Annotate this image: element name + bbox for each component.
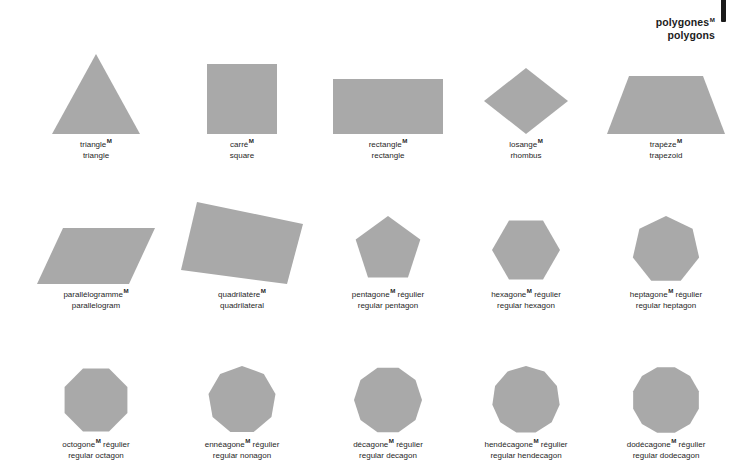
caption-french-noun: octogone xyxy=(62,440,95,449)
caption-english: triangle xyxy=(22,151,170,162)
figure-cell-parallelogram: parallélogrammeMparallelogram xyxy=(22,188,170,311)
caption-french: ennéagoneM régulier xyxy=(168,440,316,451)
caption-english: regular hendecagon xyxy=(452,451,600,462)
caption-french-noun: losange xyxy=(509,140,537,149)
shape-regular-polygon-10-sides xyxy=(314,338,462,434)
figure-caption: pentagoneM régulierregular pentagon xyxy=(314,290,462,311)
figure-cell-regular-dodecagon: dodécagoneM régulierregular dodecagon xyxy=(592,338,739,461)
caption-english: quadrilateral xyxy=(168,301,316,312)
caption-english: parallelogram xyxy=(22,301,170,312)
caption-french-noun: dodécagone xyxy=(627,440,671,449)
caption-french-noun: heptagone xyxy=(630,290,668,299)
shape-regular-polygon-8-sides xyxy=(22,338,170,434)
shape-rectangle-4-sides xyxy=(314,38,462,134)
caption-french: rectangleM xyxy=(314,140,462,151)
caption-french: quadrilatèreM xyxy=(168,290,316,301)
shape-regular-polygon-7-sides xyxy=(592,188,739,284)
shape-rhombus-4-sides xyxy=(452,38,600,134)
caption-english: trapezoid xyxy=(592,151,739,162)
caption-french-suffix: régulier xyxy=(676,440,705,449)
figure-cell-regular-hexagon: hexagoneM régulierregular hexagon xyxy=(452,188,600,311)
shape-trapezoid-4-sides xyxy=(592,38,739,134)
figure-cell-triangle: triangleMtriangle xyxy=(22,38,170,161)
caption-french-suffix: régulier xyxy=(539,440,568,449)
figure-caption: losangeMrhombus xyxy=(452,140,600,161)
caption-french: triangleM xyxy=(22,140,170,151)
gender-marker: M xyxy=(249,137,254,144)
figure-cell-regular-heptagon: heptagoneM régulierregular heptagon xyxy=(592,188,739,311)
figure-caption: octogoneM régulierregular octagon xyxy=(22,440,170,461)
caption-french: hexagoneM régulier xyxy=(452,290,600,301)
caption-french: hendécagoneM régulier xyxy=(452,440,600,451)
shape-regular-polygon-9-sides xyxy=(168,338,316,434)
figure-caption: heptagoneM régulierregular heptagon xyxy=(592,290,739,311)
caption-english: rhombus xyxy=(452,151,600,162)
gender-marker: M xyxy=(261,287,266,294)
caption-french-noun: trapèze xyxy=(650,140,677,149)
figure-caption: décagoneM régulierregular decagon xyxy=(314,440,462,461)
caption-english: regular decagon xyxy=(314,451,462,462)
shape-regular-polygon-5-sides xyxy=(314,188,462,284)
caption-french-noun: décagone xyxy=(353,440,388,449)
caption-french-suffix: régulier xyxy=(532,290,561,299)
gender-marker: M xyxy=(538,137,543,144)
shape-regular-polygon-12-sides xyxy=(592,338,739,434)
gender-marker: M xyxy=(107,137,112,144)
figure-caption: parallélogrammeMparallelogram xyxy=(22,290,170,311)
caption-english: regular octagon xyxy=(22,451,170,462)
caption-french: heptagoneM régulier xyxy=(592,290,739,301)
figure-caption: dodécagoneM régulierregular dodecagon xyxy=(592,440,739,461)
figure-cell-trapezoid: trapèzeMtrapezoid xyxy=(592,38,739,161)
figure-cell-regular-pentagon: pentagoneM régulierregular pentagon xyxy=(314,188,462,311)
figure-caption: ennéagoneM régulierregular nonagon xyxy=(168,440,316,461)
caption-english: square xyxy=(168,151,316,162)
caption-french-suffix: régulier xyxy=(673,290,702,299)
caption-french-noun: hendécagone xyxy=(484,440,533,449)
figure-cell-rhombus: losangeMrhombus xyxy=(452,38,600,161)
caption-english: regular heptagon xyxy=(592,301,739,312)
caption-french: pentagoneM régulier xyxy=(314,290,462,301)
caption-french-suffix: régulier xyxy=(394,440,423,449)
caption-french: losangeM xyxy=(452,140,600,151)
figure-cell-regular-nonagon: ennéagoneM régulierregular nonagon xyxy=(168,338,316,461)
figure-caption: trapèzeMtrapezoid xyxy=(592,140,739,161)
figure-caption: triangleMtriangle xyxy=(22,140,170,161)
caption-french-noun: hexagone xyxy=(491,290,526,299)
shape-square-4-sides xyxy=(168,38,316,134)
caption-french-noun: rectangle xyxy=(369,140,402,149)
caption-french-suffix: régulier xyxy=(250,440,279,449)
figure-caption: carréMsquare xyxy=(168,140,316,161)
caption-french-noun: pentagone xyxy=(352,290,390,299)
caption-french-noun: parallélogramme xyxy=(63,290,123,299)
caption-english: regular dodecagon xyxy=(592,451,739,462)
caption-english: rectangle xyxy=(314,151,462,162)
figure-grid: triangleMtrianglecarréMsquarerectangleMr… xyxy=(0,0,739,473)
gender-marker: M xyxy=(402,137,407,144)
shape-regular-polygon-6-sides xyxy=(452,188,600,284)
caption-french-noun: quadrilatère xyxy=(218,290,260,299)
caption-english: regular pentagon xyxy=(314,301,462,312)
figure-caption: quadrilatèreMquadrilateral xyxy=(168,290,316,311)
figure-cell-quadrilateral: quadrilatèreMquadrilateral xyxy=(168,188,316,311)
figure-caption: hexagoneM régulierregular hexagon xyxy=(452,290,600,311)
caption-french-suffix: régulier xyxy=(101,440,130,449)
caption-french: trapèzeM xyxy=(592,140,739,151)
caption-french-noun: triangle xyxy=(80,140,106,149)
caption-french: carréM xyxy=(168,140,316,151)
figure-cell-regular-hendecagon: hendécagoneM régulierregular hendecagon xyxy=(452,338,600,461)
figure-cell-regular-decagon: décagoneM régulierregular decagon xyxy=(314,338,462,461)
caption-french: décagoneM régulier xyxy=(314,440,462,451)
gender-marker: M xyxy=(123,287,128,294)
shape-parallelogram-4-sides xyxy=(22,188,170,284)
figure-caption: hendécagoneM régulierregular hendecagon xyxy=(452,440,600,461)
caption-french-noun: carré xyxy=(230,140,248,149)
shape-regular-polygon-11-sides xyxy=(452,338,600,434)
caption-french: octogoneM régulier xyxy=(22,440,170,451)
figure-cell-square: carréMsquare xyxy=(168,38,316,161)
caption-french-noun: ennéagone xyxy=(205,440,245,449)
caption-french: dodécagoneM régulier xyxy=(592,440,739,451)
shape-quadrilateral-4-sides xyxy=(168,188,316,284)
caption-french: parallélogrammeM xyxy=(22,290,170,301)
figure-cell-regular-octagon: octogoneM régulierregular octagon xyxy=(22,338,170,461)
shape-triangle-3-sides xyxy=(22,38,170,134)
